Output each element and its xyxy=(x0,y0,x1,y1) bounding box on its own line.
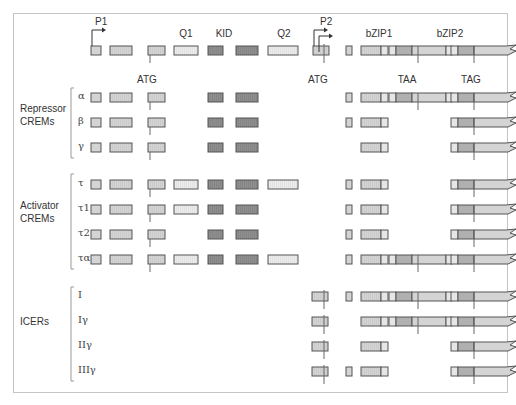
bzip2-lead xyxy=(451,118,458,127)
exon-small xyxy=(346,93,352,102)
bzip1-exon xyxy=(361,367,381,376)
exon-kid-a xyxy=(208,93,223,102)
bzip1-end xyxy=(381,180,388,189)
bzip2-lead xyxy=(451,317,458,326)
bzip2-lead xyxy=(451,93,458,102)
exon-2 xyxy=(110,118,132,127)
bzip1-exon xyxy=(361,317,381,326)
alt-exon-mid xyxy=(412,46,446,55)
bzip2-domain xyxy=(458,255,474,264)
3-prime-utr-exon xyxy=(474,366,516,376)
bzip1-exon xyxy=(361,205,381,214)
3-prime-utr-exon xyxy=(474,179,516,189)
alt-exon-dark xyxy=(396,292,412,301)
bzip1-exon xyxy=(361,93,381,102)
exon-atg xyxy=(148,143,165,152)
exon-kid-a xyxy=(208,46,223,55)
exon-icer-first xyxy=(312,292,328,301)
isoform-label: α xyxy=(78,90,85,101)
exon-q1 xyxy=(174,205,198,214)
exon-2 xyxy=(110,46,132,55)
3-prime-utr-exon xyxy=(474,142,516,152)
exon-kid-b xyxy=(236,180,258,189)
exon-kid-a xyxy=(208,118,223,127)
3-prime-utr-exon xyxy=(474,92,516,102)
3-prime-utr-exon xyxy=(474,229,516,239)
exon-kid-a xyxy=(208,205,223,214)
alt-exon-dark xyxy=(396,93,412,102)
bzip1-end xyxy=(381,205,388,214)
bzip1-exon xyxy=(361,342,381,351)
alt-exon-dark xyxy=(396,317,412,326)
bzip1-exon xyxy=(361,118,381,127)
bzip2-domain xyxy=(458,180,474,189)
group-label: ActivatorCREMs xyxy=(20,199,59,225)
exon-2 xyxy=(110,180,132,189)
isoform-label: γ xyxy=(78,140,84,151)
exon-p1 xyxy=(91,230,101,239)
domain-label: Q2 xyxy=(277,28,290,39)
group-bracket xyxy=(71,287,74,381)
bzip2-lead xyxy=(451,255,458,264)
exon-kid-b xyxy=(236,93,258,102)
arrowhead-icon xyxy=(102,28,106,33)
isoform-label: τ2 xyxy=(78,227,90,238)
3-prime-utr-exon xyxy=(474,291,516,301)
isoform-label: Iγ xyxy=(78,314,88,325)
alt-exon-lead xyxy=(389,46,396,55)
exon-2 xyxy=(110,255,132,264)
bzip2-domain xyxy=(458,46,474,55)
codon-label: TAG xyxy=(461,74,481,85)
bzip1-end xyxy=(381,118,388,127)
exon-2 xyxy=(110,93,132,102)
exon-icer-first xyxy=(312,367,328,376)
bzip1-end xyxy=(381,46,388,55)
exon-small xyxy=(346,230,352,239)
alt-exon-mid xyxy=(412,317,446,326)
isoform-label: τ xyxy=(78,177,84,188)
bzip2-domain xyxy=(458,317,474,326)
codon-label: ATG xyxy=(308,74,328,85)
exon-2 xyxy=(110,143,132,152)
exon-atg xyxy=(148,255,165,264)
exon-kid-b xyxy=(236,46,258,55)
promoter-label: P2 xyxy=(320,16,332,27)
3-prime-utr-exon xyxy=(474,45,516,55)
bzip1-end xyxy=(381,255,388,264)
bzip1-end xyxy=(381,342,388,351)
domain-label: bZIP1 xyxy=(366,28,393,39)
exon-p2 xyxy=(313,46,329,55)
bzip2-domain xyxy=(458,205,474,214)
bzip2-lead xyxy=(451,205,458,214)
isoform-label: IIIγ xyxy=(78,364,96,375)
bzip1-end xyxy=(381,292,388,301)
exon-q2 xyxy=(268,180,298,189)
bzip2-lead xyxy=(451,143,458,152)
bzip1-end xyxy=(381,230,388,239)
alt-exon-lead xyxy=(389,317,396,326)
isoform-label: τα xyxy=(78,252,90,263)
exon-p1 xyxy=(91,93,101,102)
exon-p1 xyxy=(91,118,101,127)
bzip2-domain xyxy=(458,143,474,152)
exon-small xyxy=(346,46,352,55)
exon-atg xyxy=(148,46,165,55)
alt-exon-dark xyxy=(396,255,412,264)
exon-icer-first xyxy=(312,342,328,351)
bzip2-domain xyxy=(458,230,474,239)
3-prime-utr-exon xyxy=(474,254,516,264)
alt-exon-lead xyxy=(389,93,396,102)
exon-small xyxy=(346,292,352,301)
domain-label: Q1 xyxy=(179,28,192,39)
alt-exon-lead xyxy=(389,255,396,264)
bzip2-lead xyxy=(451,230,458,239)
exon-q1 xyxy=(174,46,198,55)
bzip1-exon xyxy=(361,46,381,55)
alt-exon-mid xyxy=(412,93,446,102)
exon-q1 xyxy=(174,255,198,264)
exon-q2 xyxy=(268,255,298,264)
codon-label: ATG xyxy=(137,74,157,85)
bzip2-lead xyxy=(451,342,458,351)
exon-kid-b xyxy=(236,143,258,152)
promoter-label: P1 xyxy=(95,16,107,27)
